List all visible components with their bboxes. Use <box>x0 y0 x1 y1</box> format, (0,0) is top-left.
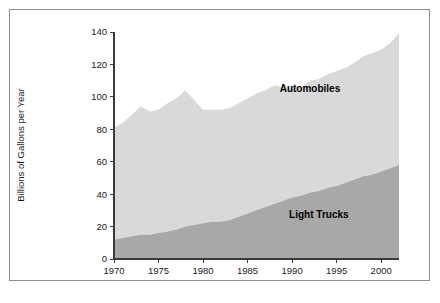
series-label-automobiles: Automobiles <box>280 83 341 94</box>
area-chart: 020406080100120140 197019751980198519901… <box>10 10 429 280</box>
axis-titles: Billions of Gallons per Year <box>15 88 26 202</box>
x-tick-label: 1995 <box>326 265 347 276</box>
figure: 020406080100120140 197019751980198519901… <box>0 0 440 303</box>
y-axis-title: Billions of Gallons per Year <box>15 88 26 202</box>
y-tick-label: 20 <box>96 221 107 232</box>
y-tick-label: 0 <box>102 253 107 264</box>
x-tick-label: 1975 <box>148 265 169 276</box>
y-tick-label: 120 <box>91 59 107 70</box>
y-tick-label: 100 <box>91 91 107 102</box>
x-tick-label: 1970 <box>103 265 124 276</box>
x-axis-ticks: 1970197519801985199019952000 <box>103 259 391 276</box>
chart-frame: 020406080100120140 197019751980198519901… <box>9 9 430 281</box>
x-tick-label: 1990 <box>282 265 303 276</box>
x-tick-label: 1985 <box>237 265 258 276</box>
x-tick-label: 1980 <box>192 265 213 276</box>
x-tick-label: 2000 <box>371 265 392 276</box>
y-tick-label: 60 <box>96 156 107 167</box>
y-tick-label: 80 <box>96 124 107 135</box>
y-axis-ticks: 020406080100120140 <box>91 26 114 264</box>
y-tick-label: 140 <box>91 26 107 37</box>
series-label-light-trucks: Light Trucks <box>289 209 349 220</box>
plot-areas <box>114 34 399 259</box>
y-tick-label: 40 <box>96 189 107 200</box>
